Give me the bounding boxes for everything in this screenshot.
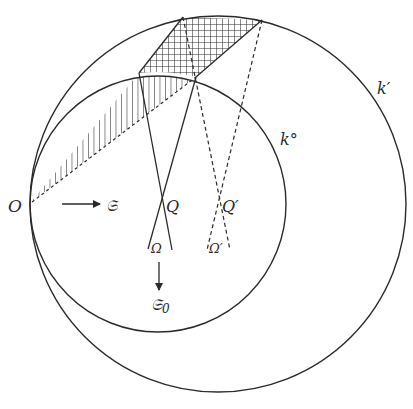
label-k-prime: k′	[377, 79, 391, 98]
label-S: 𝔖	[106, 196, 120, 215]
hatch-diagonal-edge	[32, 77, 196, 202]
label-Q-prime: Q′	[222, 197, 239, 216]
label-Q: Q	[166, 197, 179, 216]
label-Omega: Ω	[150, 241, 162, 256]
label-S0: 𝔖0	[151, 295, 170, 316]
line-hatch-region	[30, 72, 196, 203]
label-k0: k°	[280, 130, 298, 149]
label-S0-subscript: 0	[162, 302, 170, 316]
label-Omega-prime: Ω′	[208, 241, 223, 256]
label-O: O	[8, 196, 22, 216]
geometry-diagram: O 𝔖 Q Q′ Ω Ω′ 𝔖0 k° k′	[0, 0, 413, 409]
